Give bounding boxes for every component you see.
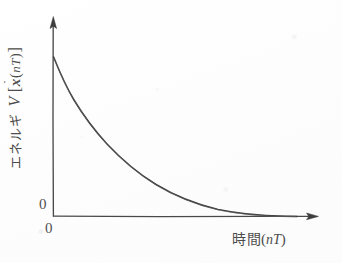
- y-axis-label-dot-accent: ˙: [1, 79, 14, 84]
- y-axis-label-t: T: [8, 58, 23, 66]
- energy-decay-curve: [54, 57, 297, 216]
- x-axis-label-t: T: [273, 232, 281, 247]
- x-axis-label-paren-close: ): [281, 231, 286, 247]
- y-axis-label-n: n: [8, 66, 23, 73]
- x-axis-origin-label: 0: [45, 221, 53, 236]
- x-axis-label-n: n: [266, 232, 273, 247]
- y-axis-label: エネルギV[ x ˙ (nT)]: [4, 8, 26, 208]
- y-axis-origin-label: 0: [39, 197, 47, 212]
- y-axis-label-bracket-close: ]: [6, 47, 23, 53]
- y-axis-label-bracket-open: [: [6, 86, 23, 92]
- y-axis-label-paren-close: ): [8, 53, 23, 58]
- x-axis-label: 時間(nT): [232, 232, 286, 247]
- y-axis-label-kana: エネルギ: [8, 113, 23, 170]
- energy-decay-curve-shadow: [54, 58, 296, 217]
- figure-root: エネルギV[ x ˙ (nT)] 時間(nT) 0 0: [0, 0, 342, 263]
- y-axis-label-symbol-v: V: [6, 96, 23, 106]
- x-axis-label-kanji: 時間: [232, 231, 261, 247]
